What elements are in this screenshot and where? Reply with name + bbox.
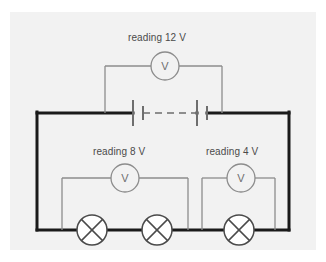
lamp-2 — [142, 215, 172, 245]
voltmeter-left: V — [111, 164, 139, 192]
voltmeter-right-symbol: V — [237, 172, 245, 184]
voltmeter-right: V — [227, 164, 255, 192]
voltmeter-left-label: reading 8 V — [93, 146, 145, 158]
voltmeter-right-label: reading 4 V — [206, 146, 258, 158]
battery — [133, 100, 207, 126]
voltmeter-top: V — [151, 52, 179, 80]
circuit-diagram-figure: V V V reading 12 V reading 8 V — [0, 0, 326, 262]
lamp-3 — [224, 215, 254, 245]
voltmeter-left-symbol: V — [121, 172, 129, 184]
voltmeter-top-label: reading 12 V — [128, 32, 186, 44]
lamp-1 — [77, 215, 107, 245]
voltmeter-top-symbol: V — [161, 60, 169, 72]
